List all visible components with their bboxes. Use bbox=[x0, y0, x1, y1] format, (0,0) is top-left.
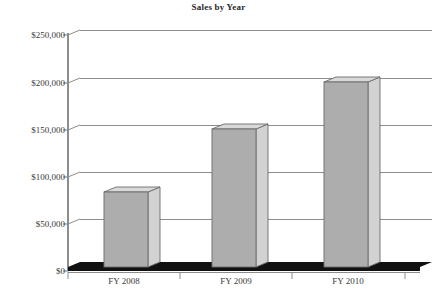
connector-50000 bbox=[68, 219, 80, 224]
y-axis-label-250000: $250,000 bbox=[31, 30, 65, 40]
bar-fy-2009[interactable] bbox=[212, 124, 268, 267]
bar-fy-2009-front bbox=[212, 129, 256, 267]
y-axis-label-100000: $100,000 bbox=[31, 172, 65, 182]
bar-fy-2010[interactable] bbox=[324, 77, 380, 267]
bar-fy-2010-side bbox=[368, 77, 380, 267]
y-axis-label-150000: $150,000 bbox=[31, 125, 65, 135]
x-axis-label-fy-2010: FY 2010 bbox=[332, 276, 363, 286]
x-axis-label-fy-2009: FY 2009 bbox=[220, 276, 251, 286]
y-axis-label-0: $0 bbox=[56, 266, 65, 276]
connector-150000 bbox=[68, 125, 80, 130]
grid-depth-connectors bbox=[68, 30, 80, 271]
y-tick-marks bbox=[63, 35, 68, 271]
chart-plot-area bbox=[0, 0, 437, 296]
connector-250000 bbox=[68, 30, 80, 35]
sales-by-year-chart: Sales by Year bbox=[0, 0, 437, 296]
floor-front-lip bbox=[68, 267, 420, 271]
y-axis-label-50000: $50,000 bbox=[36, 219, 65, 229]
y-axis-label-200000: $200,000 bbox=[31, 78, 65, 88]
bar-fy-2008[interactable] bbox=[104, 187, 160, 267]
bar-fy-2008-side bbox=[148, 187, 160, 267]
x-axis-label-fy-2008: FY 2008 bbox=[108, 276, 139, 286]
bar-fy-2009-side bbox=[256, 124, 268, 267]
connector-200000 bbox=[68, 78, 80, 83]
bar-fy-2008-front bbox=[104, 192, 148, 267]
bar-fy-2010-front bbox=[324, 82, 368, 267]
connector-100000 bbox=[68, 172, 80, 177]
